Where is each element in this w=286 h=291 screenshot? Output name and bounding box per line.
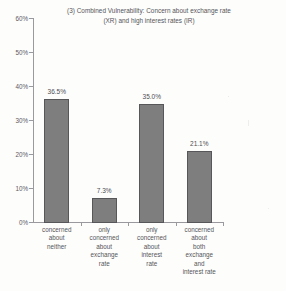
y-axis-tick-label: 10%	[15, 185, 28, 192]
bar	[92, 198, 117, 223]
chart-page: (3) Combined Vulnerability: Concern abou…	[0, 0, 286, 291]
y-axis-tick-label: 60%	[15, 15, 28, 22]
bar	[44, 99, 69, 223]
x-axis-category-labels: concerned about neitheronly concerned ab…	[33, 226, 223, 288]
x-axis-tick	[223, 222, 224, 226]
bar	[139, 104, 164, 223]
bar	[187, 151, 212, 223]
x-axis-category-label: concerned about neither	[33, 226, 81, 251]
x-axis-category-label: concerned about both exchange and intere…	[176, 226, 224, 276]
y-axis-tick-label: 30%	[15, 117, 28, 124]
y-axis-tick-label: 40%	[15, 83, 28, 90]
bars-layer: 36.5%7.3%35.0%21.1%	[33, 18, 223, 223]
bar-value-label: 36.5%	[48, 88, 66, 95]
y-axis-tick-label: 50%	[15, 49, 28, 56]
bar-value-label: 7.3%	[97, 187, 112, 194]
x-axis-category-label: only concerned about interest rate	[128, 226, 176, 268]
y-axis-tick-label: 20%	[15, 151, 28, 158]
scan-speckle	[248, 120, 249, 126]
y-axis-tick-label: 0%	[19, 219, 28, 226]
scan-speckle	[268, 208, 269, 209]
scan-speckle	[228, 96, 229, 97]
x-axis-category-label: only concerned about exchange rate	[81, 226, 129, 268]
bar-value-label: 35.0%	[143, 93, 161, 100]
plot-area: 0%10%20%30%40%50%60% 36.5%7.3%35.0%21.1%	[33, 18, 222, 222]
bar-value-label: 21.1%	[190, 140, 208, 147]
